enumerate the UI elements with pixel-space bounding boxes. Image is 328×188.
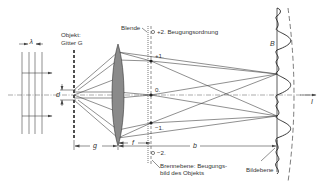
image-symbol: B [270, 40, 275, 47]
intensity-label: I [311, 98, 313, 105]
wavelength-dimension: λ [19, 38, 43, 45]
object-label: Objekt: [61, 31, 81, 38]
focal-plane-caption-line2: bild des Objekts [160, 169, 204, 176]
lens [112, 44, 124, 146]
intensity-profile [276, 8, 291, 174]
order-plus2-label: +2. Beugungsordnung [157, 28, 219, 35]
object-distance-label: g [93, 142, 97, 150]
image-distance-label: b [193, 142, 197, 149]
aperture-label: Blende [121, 24, 141, 31]
diffraction-imaging-diagram: λ Objekt: Gitter G d [0, 0, 328, 188]
order-minus1-label: −1. [155, 124, 164, 131]
order-plus1-label: +1. [155, 52, 164, 59]
diffraction-orders: +2. Beugungsordnung +1. 0. −1. −2. [149, 28, 218, 156]
order-0-label: 0. [155, 86, 160, 93]
focal-plane-caption-line1: Brennebene: Beugungs- [160, 162, 227, 169]
incident-wavefronts [22, 52, 52, 134]
image-plane-label: Bildebene [246, 166, 274, 173]
grating-constant-label: d [56, 91, 61, 98]
wavelength-label: λ [29, 38, 34, 45]
order-minus2-label: −2. [157, 149, 166, 156]
focal-length-label: f [132, 139, 135, 146]
distance-dimensions: g f b [74, 139, 277, 150]
grating-label: Gitter G [61, 39, 83, 46]
